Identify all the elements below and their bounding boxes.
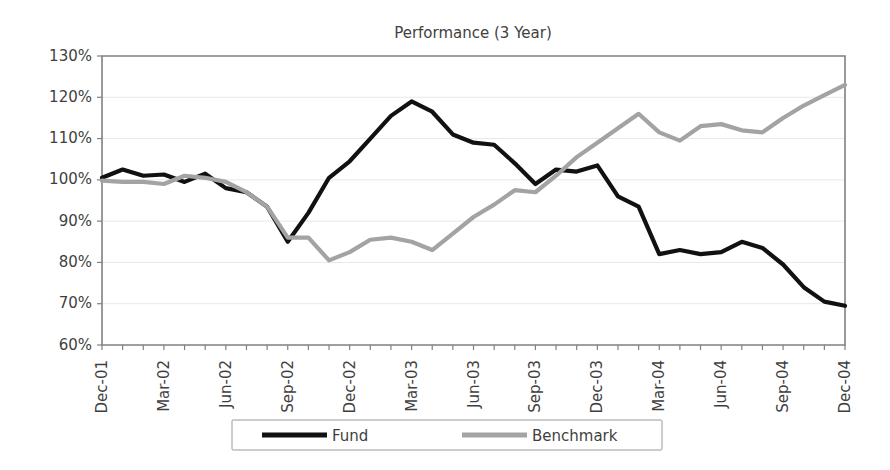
x-tick-label: Jun-02	[217, 360, 235, 409]
x-tick-label: Sep-02	[279, 360, 297, 413]
y-tick-label: 100%	[49, 170, 92, 188]
x-tick-label: Sep-04	[774, 360, 792, 413]
x-tick-label: Sep-03	[526, 360, 544, 413]
x-tick-label: Dec-04	[836, 360, 854, 414]
x-tick-label: Dec-03	[588, 360, 606, 414]
chart-canvas: 60%70%80%90%100%110%120%130% Dec-01Mar-0…	[0, 0, 890, 470]
x-tick-label: Jun-03	[465, 360, 483, 409]
y-axis-tick-labels: 60%70%80%90%100%110%120%130%	[49, 47, 92, 354]
y-tick-label: 90%	[59, 212, 92, 230]
legend-label-fund: Fund	[332, 427, 368, 445]
performance-chart: 60%70%80%90%100%110%120%130% Dec-01Mar-0…	[0, 0, 890, 470]
x-tick-label: Mar-03	[403, 360, 421, 412]
x-tick-label: Mar-04	[650, 360, 668, 412]
x-tick-label: Dec-01	[93, 360, 111, 414]
chart-title: Performance (3 Year)	[394, 24, 552, 42]
series-line-fund	[102, 101, 845, 305]
x-tick-label: Jun-04	[712, 360, 730, 409]
y-tick-label: 110%	[49, 129, 92, 147]
x-tick-label: Mar-02	[155, 360, 173, 412]
chart-legend: FundBenchmark	[232, 420, 662, 450]
y-tick-label: 70%	[59, 294, 92, 312]
y-tick-label: 80%	[59, 253, 92, 271]
series-lines-group	[102, 85, 845, 306]
series-line-benchmark	[102, 85, 845, 260]
x-tick-label: Dec-02	[341, 360, 359, 414]
y-tick-label: 60%	[59, 336, 92, 354]
y-tick-label: 120%	[49, 88, 92, 106]
plot-border	[102, 56, 845, 345]
x-axis-tick-labels: Dec-01Mar-02Jun-02Sep-02Dec-02Mar-03Jun-…	[93, 360, 854, 414]
y-tick-label: 130%	[49, 47, 92, 65]
legend-label-benchmark: Benchmark	[532, 427, 618, 445]
